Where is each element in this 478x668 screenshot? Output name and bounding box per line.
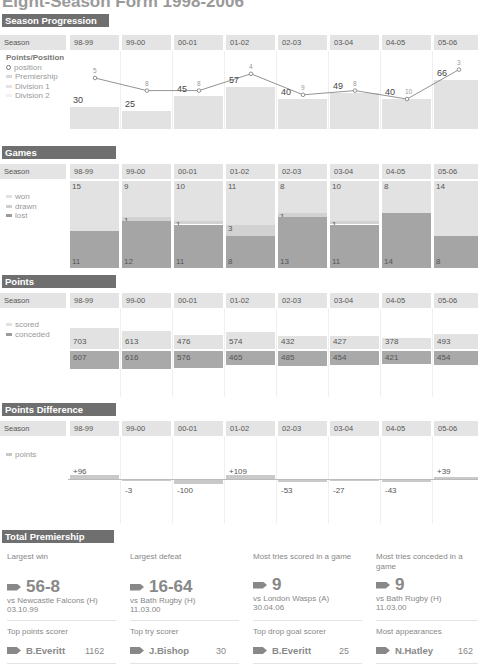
column-divider — [120, 309, 121, 397]
lost-swatch-icon — [6, 214, 12, 217]
season-column-header: 04-05 — [382, 421, 431, 436]
season-column-header: 04-05 — [382, 164, 431, 179]
won-bar — [278, 181, 327, 213]
tag-icon — [130, 647, 144, 654]
tag-icon — [376, 582, 390, 589]
conceded-value: 485 — [281, 353, 294, 362]
scored-swatch-icon — [6, 323, 12, 326]
won-value: 10 — [176, 182, 185, 191]
season-column-header: 05-06 — [434, 421, 478, 436]
difference-value: +109 — [229, 467, 247, 476]
season-column-header: 00-01 — [174, 421, 223, 436]
section-header-points: Points — [2, 275, 116, 288]
season-column-header: 05-06 — [434, 293, 478, 308]
lost-bar — [434, 236, 478, 268]
won-value: 10 — [332, 182, 341, 191]
scored-value: 476 — [177, 337, 190, 346]
scored-value: 574 — [229, 337, 242, 346]
chart-legend: wondrawnlost — [6, 192, 37, 221]
divider — [130, 663, 239, 664]
legend-item: points — [6, 450, 36, 460]
lost-value: 12 — [124, 257, 133, 266]
lost-value: 11 — [72, 257, 80, 266]
record-date: 11.03.00 — [130, 605, 230, 614]
won-value: 11 — [228, 182, 236, 191]
tag-icon — [253, 647, 267, 654]
position-marker-icon — [145, 89, 149, 93]
legend-label: points — [15, 450, 36, 459]
season-column-header: 00-01 — [174, 293, 223, 308]
legend-item: won — [6, 192, 37, 202]
scorer-row: N.Hatley — [376, 645, 433, 656]
section-header-difference: Points Difference — [2, 403, 116, 416]
position-marker-icon — [93, 76, 97, 80]
conceded-value: 454 — [333, 353, 346, 362]
difference-bar — [382, 480, 431, 482]
scored-value: 427 — [333, 337, 346, 346]
season-column-header: 01-02 — [226, 164, 275, 179]
column-divider — [328, 309, 329, 397]
tag-icon — [130, 584, 144, 591]
divider — [253, 620, 362, 621]
season-column-header: 04-05 — [382, 293, 431, 308]
scorer-name: J.Bishop — [149, 645, 189, 656]
season-label: Season — [0, 421, 66, 436]
scorer-label: Most appearances — [376, 627, 442, 637]
difference-value: -3 — [125, 486, 132, 495]
lost-value: 11 — [176, 257, 184, 266]
season-column-header: 98-99 — [70, 293, 119, 308]
drawn-bar — [226, 225, 275, 237]
lost-value: 13 — [280, 257, 289, 266]
divider — [376, 663, 478, 664]
divider — [7, 663, 116, 664]
won-value: 9 — [124, 182, 128, 191]
legend-label: conceded — [15, 330, 50, 339]
drawn-swatch-icon — [6, 205, 12, 208]
conceded-value: 607 — [73, 353, 86, 362]
position-marker-icon — [457, 68, 461, 72]
won-value: 14 — [436, 182, 445, 191]
season-column-header: 98-99 — [70, 164, 119, 179]
difference-value: -53 — [281, 486, 293, 495]
won-bar — [122, 181, 171, 217]
difference-value: -100 — [177, 486, 193, 495]
legend-item: lost — [6, 211, 37, 221]
season-column-header: 99-00 — [122, 164, 171, 179]
tag-icon — [7, 584, 21, 591]
record-label: Most tries conceded in a game — [376, 552, 476, 574]
column-divider — [432, 437, 433, 523]
season-column-header: 02-03 — [278, 164, 327, 179]
column-divider — [328, 437, 329, 523]
difference-bar — [122, 480, 171, 481]
tag-icon — [253, 582, 267, 589]
season-column-header: 02-03 — [278, 421, 327, 436]
record-score: 9 — [253, 576, 353, 594]
conceded-value: 576 — [177, 353, 190, 362]
difference-bar — [330, 480, 379, 481]
season-column-header: 05-06 — [434, 164, 478, 179]
legend-label: scored — [15, 320, 39, 329]
season-column-header: 03-04 — [330, 293, 379, 308]
won-swatch-icon — [6, 195, 12, 198]
record-score: 16-64 — [130, 578, 230, 596]
column-divider — [276, 309, 277, 397]
scorer-value: 30 — [216, 646, 226, 656]
record-score: 56-8 — [7, 578, 107, 596]
scored-value: 432 — [281, 337, 294, 346]
position-marker-icon — [249, 72, 253, 76]
scorer-label: Top drop goal scorer — [253, 627, 326, 637]
points-swatch-icon — [6, 453, 12, 456]
score-value: 9 — [395, 576, 404, 594]
season-column-header: 01-02 — [226, 421, 275, 436]
season-column-header: 00-01 — [174, 164, 223, 179]
season-column-header: 98-99 — [70, 421, 119, 436]
column-divider — [276, 437, 277, 523]
conceded-value: 454 — [437, 353, 450, 362]
record-card: Most tries conceded in a game9vs Bath Ru… — [376, 552, 476, 612]
scorer-name: B.Everitt — [272, 645, 311, 656]
legend-label: won — [15, 192, 30, 201]
column-divider — [224, 309, 225, 397]
legend-item: drawn — [6, 202, 37, 212]
conceded-value: 421 — [385, 353, 398, 362]
won-value: 8 — [280, 182, 284, 191]
